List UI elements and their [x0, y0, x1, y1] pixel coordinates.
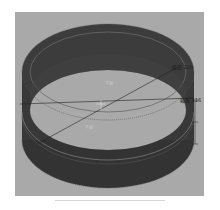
section-label-mid: 截面 216 [180, 97, 201, 103]
dimension-lower: 50 [189, 130, 194, 135]
3d-viewport[interactable]: 截面 220 截面 216 50 50 平面 平面 [15, 12, 204, 196]
section-label-top: 截面 220 [172, 64, 193, 70]
dimension-upper: 50 [189, 108, 194, 113]
inner-plane-label-top: 平面 [105, 80, 113, 86]
inner-plane-label-bottom: 平面 [85, 124, 93, 130]
divider [55, 200, 165, 201]
ring-model [15, 12, 204, 196]
